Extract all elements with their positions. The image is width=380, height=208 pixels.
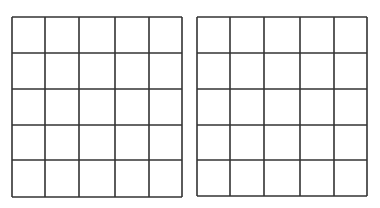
left-grid-lines (11, 16, 183, 198)
left-grid (11, 16, 183, 198)
right-grid (196, 16, 368, 197)
right-grid-lines (196, 16, 368, 197)
